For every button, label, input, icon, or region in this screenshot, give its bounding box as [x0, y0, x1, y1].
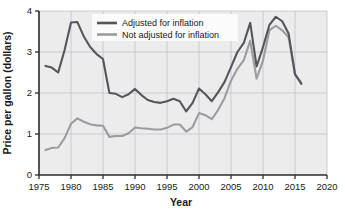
x-tick-label-2020: 2020 [316, 181, 337, 192]
y-axis-label: Price per gallon (dollars) [1, 31, 13, 154]
price-per-gallon-line-chart: 01234 1975198019851990199520002005201020… [0, 0, 345, 212]
x-tick-label-2015: 2015 [284, 181, 305, 192]
x-tick-label-2000: 2000 [188, 181, 209, 192]
chart-legend: Adjusted for inflationNot adjusted for i… [92, 14, 238, 41]
y-tick-label-4: 4 [27, 5, 32, 16]
y-tick-label-0: 0 [27, 169, 32, 180]
legend-label-0: Adjusted for inflation [122, 18, 204, 28]
legend-label-1: Not adjusted for inflation [122, 30, 219, 40]
y-tick-label-1: 1 [27, 128, 32, 139]
x-tick-label-2005: 2005 [220, 181, 241, 192]
x-axis-label: Year [170, 196, 192, 208]
x-tick-label-1990: 1990 [124, 181, 145, 192]
x-tick-label-2010: 2010 [252, 181, 273, 192]
x-tick-label-1995: 1995 [156, 181, 177, 192]
x-tick-label-1980: 1980 [60, 181, 81, 192]
y-tick-label-3: 3 [27, 46, 32, 57]
x-tick-label-1975: 1975 [28, 181, 49, 192]
x-tick-label-1985: 1985 [92, 181, 113, 192]
chart-canvas: 01234 1975198019851990199520002005201020… [0, 0, 345, 212]
y-tick-label-2: 2 [27, 87, 32, 98]
